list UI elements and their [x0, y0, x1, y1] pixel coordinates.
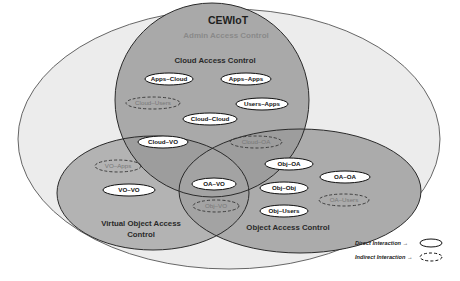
- diagram-title: CEWIoT: [208, 14, 249, 26]
- vo-access-control-label-2: Control: [127, 230, 155, 239]
- interaction-apps-cloud: Apps–Cloud: [145, 73, 193, 85]
- legend-indirect-label: Indirect Interaction →: [355, 254, 413, 260]
- interaction-label: Users–Apps: [244, 100, 281, 107]
- interaction-apps-apps: Apps–Apps: [221, 73, 271, 85]
- interaction-label: OA–VO: [203, 180, 225, 187]
- interaction-obj-users: Obj–Users: [260, 205, 308, 217]
- legend-direct-label: Direct Interaction →: [355, 240, 408, 246]
- interaction-label: Cloud–OA: [242, 138, 271, 145]
- access-control-venn-diagram: CEWIoT Admin Access Control Cloud Access…: [0, 0, 460, 281]
- interaction-users-apps: Users–Apps: [236, 98, 288, 110]
- interaction-label: Apps–Cloud: [151, 75, 188, 82]
- interaction-label: Obj–VO: [205, 202, 227, 209]
- interaction-oa-oa: OA–OA: [320, 171, 370, 183]
- interaction-label: Apps–Apps: [229, 75, 264, 82]
- vo-access-control-label-1: Virtual Object Access: [101, 219, 181, 228]
- legend-direct-ellipse: [420, 239, 442, 247]
- interaction-vo-vo: VO–VO: [103, 184, 155, 196]
- interaction-label: OA–OA: [334, 173, 357, 180]
- legend-indirect-ellipse: [420, 253, 442, 261]
- interaction-label: Obj–OA: [277, 160, 301, 167]
- object-access-control-label: Object Access Control: [246, 223, 329, 232]
- interaction-obj-oa: Obj–OA: [265, 158, 313, 170]
- interaction-obj-obj: Obj–Obj: [260, 182, 308, 194]
- interaction-cloud-cloud: Cloud–Cloud: [183, 113, 237, 125]
- interaction-label: Cloud–Cloud: [191, 115, 230, 122]
- interaction-oa-vo: OA–VO: [192, 178, 236, 190]
- interaction-label: Obj–Obj: [272, 184, 296, 191]
- interaction-label: Cloud–Users: [135, 99, 171, 106]
- interaction-cloud-vo: Cloud–VO: [138, 136, 188, 148]
- interaction-label: Cloud–VO: [148, 138, 178, 145]
- admin-access-control-label: Admin Access Control: [183, 31, 269, 40]
- interaction-label: VO–Apps: [105, 162, 131, 169]
- interaction-label: VO–VO: [118, 186, 140, 193]
- cloud-access-control-label: Cloud Access Control: [174, 56, 255, 65]
- interaction-label: OA–Users: [330, 196, 359, 203]
- interaction-label: Obj–Users: [269, 207, 301, 214]
